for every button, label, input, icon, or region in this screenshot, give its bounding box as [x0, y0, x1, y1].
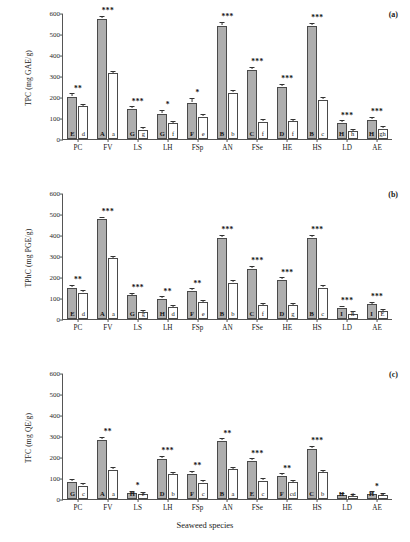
white-bar: h	[348, 131, 358, 139]
error-bar-cap	[219, 438, 224, 439]
x-tick-label: FSp	[192, 504, 204, 512]
error-bar-cap	[230, 280, 235, 281]
bar-group: Cf***FSe	[242, 194, 272, 319]
x-tick-mark	[287, 139, 288, 142]
grey-bar: F	[187, 474, 197, 499]
error-bar	[371, 118, 372, 119]
error-bar-cap	[160, 110, 165, 111]
error-bar-cap	[81, 290, 86, 291]
x-tick-label: AE	[372, 144, 382, 152]
error-bar-cap	[279, 473, 284, 474]
significance-marker: **	[194, 280, 202, 288]
error-bar-cap	[290, 119, 295, 120]
bar-group-letter: B	[220, 311, 224, 318]
white-bar: a	[108, 73, 118, 139]
bar-group: Gf*LH	[153, 14, 183, 139]
bar-group-letter: F	[190, 491, 194, 498]
bar-group-letter: A	[100, 311, 105, 318]
white-bar: g	[138, 312, 148, 319]
x-tick-label: LH	[163, 324, 173, 332]
y-tick-mark	[60, 140, 63, 141]
bar-group-letter: c	[321, 131, 324, 138]
error-bar	[371, 303, 372, 304]
white-bar: d	[168, 307, 178, 319]
x-tick-mark	[78, 139, 79, 142]
white-bar: f	[168, 123, 178, 139]
bar-group-letter: E	[381, 311, 385, 318]
grey-bar: B	[307, 238, 317, 319]
x-tick-label: HS	[313, 144, 322, 152]
panel-c: TFC (mg QE/g) (c) 0100200300400500600 Gc…	[0, 360, 410, 540]
bar-group: Ec***FSe	[242, 374, 272, 499]
error-bar	[222, 439, 223, 440]
x-tick-mark	[257, 499, 258, 502]
x-tick-label: FSe	[252, 504, 263, 512]
x-tick-label: FSp	[192, 324, 204, 332]
error-bar-cap	[201, 300, 206, 301]
significance-marker: ***	[102, 7, 114, 15]
white-bar: b	[318, 472, 328, 499]
error-bar-cap	[260, 303, 265, 304]
bar-group-letter: H	[160, 311, 165, 318]
bar-group-letter: f	[292, 131, 294, 138]
error-bar-cap	[249, 266, 254, 267]
bar-group-letter: a	[112, 491, 115, 498]
error-bar-cap	[320, 470, 325, 471]
x-tick-mark	[257, 139, 258, 142]
bar-group: Hd**LH	[153, 194, 183, 319]
error-bar	[251, 267, 252, 268]
significance-marker: ***	[132, 98, 144, 106]
grey-bar: A	[97, 219, 107, 319]
bar-group-letter: F	[190, 311, 194, 318]
significance-marker: **	[74, 85, 82, 93]
error-bar	[281, 474, 282, 475]
x-tick-mark	[347, 139, 348, 142]
error-bar	[192, 99, 193, 102]
bar-group: Df***HE	[272, 14, 302, 139]
y-tick-mark	[60, 320, 63, 321]
x-tick-mark	[107, 499, 108, 502]
bar-group-letter: I	[340, 311, 343, 318]
significance-marker: *	[196, 89, 200, 97]
bar-group: Ba**AN	[213, 374, 243, 499]
x-tick-label: PC	[74, 504, 83, 512]
bar-group-letter: E	[250, 491, 254, 498]
error-bar	[281, 278, 282, 279]
x-tick-label: AN	[222, 504, 232, 512]
error-bar	[251, 459, 252, 460]
x-tick-mark	[137, 499, 138, 502]
bar-group-letter: e	[142, 491, 145, 498]
error-bar-cap	[111, 256, 116, 257]
bar-group-letter: c	[82, 491, 85, 498]
error-bar-cap	[249, 67, 254, 68]
x-tick-label: HE	[283, 324, 293, 332]
error-bar-cap	[171, 472, 176, 473]
grey-bar: B	[217, 26, 227, 139]
bar-group-letter: g	[142, 131, 145, 138]
bar-group-letter: E	[70, 311, 74, 318]
bar-group-letter: G	[130, 131, 135, 138]
white-bar: b	[168, 474, 178, 499]
x-tick-mark	[197, 139, 198, 142]
x-tick-mark	[107, 139, 108, 142]
significance-marker: **	[104, 428, 112, 436]
error-bar-cap	[141, 127, 146, 128]
x-tick-label: LS	[134, 504, 142, 512]
white-bar: a	[108, 258, 118, 319]
x-tick-mark	[257, 319, 258, 322]
grey-bar: B	[217, 441, 227, 499]
white-bar: g	[138, 130, 148, 139]
error-bar	[222, 23, 223, 25]
white-bar: a	[228, 469, 238, 499]
error-bar	[233, 281, 234, 282]
bar-group: Db***LH	[153, 374, 183, 499]
bar-group-letter: d	[172, 311, 175, 318]
bar-group-letter: c	[321, 311, 324, 318]
error-bar-cap	[70, 285, 75, 286]
white-bar: c	[198, 483, 208, 499]
white-bar: gh	[378, 129, 388, 140]
bar-group: Cb***HS	[302, 374, 332, 499]
grey-bar: B	[217, 238, 227, 319]
bar-group-letter: A	[100, 491, 105, 498]
significance-marker: ***	[371, 108, 383, 116]
